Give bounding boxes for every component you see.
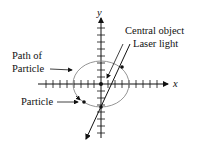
- laser-line: [86, 44, 130, 139]
- laser-light-label: Laser light: [133, 38, 178, 49]
- y-axis-label: y: [97, 7, 102, 18]
- laser-intersect-bottom: [99, 105, 103, 109]
- central-object: [99, 82, 103, 86]
- path-label-line1: Path of: [12, 50, 42, 61]
- central-object-label: Central object: [125, 25, 184, 36]
- path-pointer: [50, 69, 72, 70]
- diagram-canvas: [0, 0, 200, 149]
- x-axis-label: x: [173, 78, 178, 89]
- laser-intersect-top: [120, 65, 124, 69]
- path-label-line2: Particle: [12, 63, 44, 74]
- particle: [82, 100, 86, 104]
- central-object-pointer: [107, 44, 123, 78]
- particle-label: Particle: [21, 96, 53, 107]
